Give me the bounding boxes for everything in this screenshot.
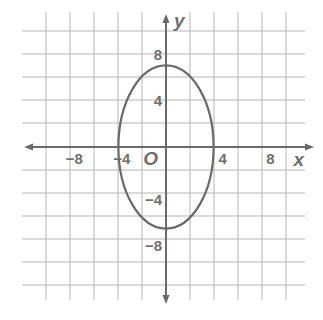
x-tick-label: 4 — [219, 150, 228, 167]
y-axis-label: y — [173, 10, 186, 31]
x-tick-label: 8 — [266, 150, 274, 167]
x-tick-label: −8 — [66, 150, 83, 167]
x-axis-right-arrow-icon — [305, 144, 314, 151]
x-axis-label: x — [292, 149, 305, 170]
y-tick-label: 4 — [154, 92, 163, 109]
grid-lines — [22, 12, 305, 300]
tick-labels: −8−44884−4−8Oxy — [66, 10, 306, 254]
origin-label: O — [143, 148, 158, 169]
y-tick-label: 8 — [154, 46, 162, 63]
y-axis-up-arrow-icon — [163, 14, 170, 23]
x-tick-label: −4 — [113, 150, 131, 167]
y-tick-label: −4 — [145, 191, 163, 208]
x-axis-left-arrow-icon — [24, 144, 33, 151]
ellipse-graph: −8−44884−4−8Oxy — [0, 0, 323, 320]
y-tick-label: −8 — [145, 237, 162, 254]
y-axis-down-arrow-icon — [163, 295, 170, 304]
